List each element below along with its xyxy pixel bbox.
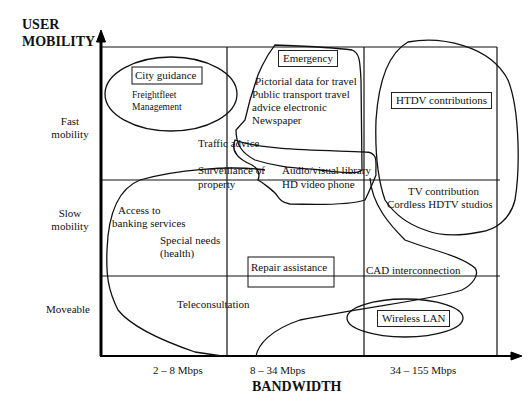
row-label-moveable: Moveable (46, 303, 90, 316)
label-surveillance-1: Surveillance of (198, 164, 265, 177)
label-newspaper: Newspaper (252, 114, 301, 127)
label-city-guidance: City guidance (135, 69, 196, 82)
label-freightfleet-2: Management (132, 101, 182, 113)
column-label-1: 2 – 8 Mbps (153, 364, 203, 377)
label-cad: CAD interconnection (366, 264, 460, 277)
label-pictorial: Pictorial data for travel (255, 75, 357, 88)
label-av-library: Audio/visual library (282, 164, 371, 177)
label-public-transport: Public transport travel (252, 88, 350, 101)
label-traffic-advice: Traffic advice (198, 137, 259, 150)
row-label-slow: Slow mobility (50, 207, 90, 233)
label-surveillance-2: property (198, 178, 235, 191)
y-axis-title-line2: MOBILITY (22, 34, 95, 50)
label-teleconsultation: Teleconsultation (177, 298, 250, 311)
label-special-1: Special needs (160, 234, 220, 247)
label-emergency: Emergency (278, 50, 338, 67)
x-axis-title: BANDWIDTH (252, 379, 341, 395)
label-hd-video-phone: HD video phone (282, 178, 355, 191)
label-wireless-lan: Wireless LAN (377, 310, 450, 327)
row-label-fast: Fast mobility (50, 115, 90, 141)
label-tv-contribution: TV contribution (408, 185, 479, 198)
y-axis-title-line1: USER (22, 17, 59, 33)
label-banking-1: Access to (118, 204, 160, 217)
label-repair-assistance: Repair assistance (251, 261, 327, 274)
label-cordless-hdtv: Cordless HDTV studios (387, 198, 493, 211)
label-freightfleet-1: Freightfleet (132, 89, 176, 101)
column-label-3: 34 – 155 Mbps (390, 364, 456, 377)
label-banking-2: banking services (112, 217, 186, 230)
label-advice-electronic: advice electronic (252, 101, 327, 114)
column-label-2: 8 – 34 Mbps (250, 364, 305, 377)
label-special-2: (health) (160, 247, 194, 260)
label-htdv: HTDV contributions (391, 92, 492, 109)
